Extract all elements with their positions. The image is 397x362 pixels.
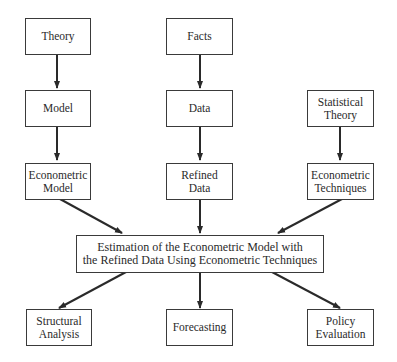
node-label-line-1: Estimation of the Econometric Model with <box>83 241 318 255</box>
node-data: Data <box>166 90 233 127</box>
node-econometric-model: Econometric Model <box>25 163 91 200</box>
node-label-line-1: Econometric <box>311 169 370 182</box>
node-statistical-theory: Statistical Theory <box>307 90 374 127</box>
node-econometric-techniques: Econometric Techniques <box>307 163 374 200</box>
arrow-techniques-estimation <box>278 199 342 233</box>
node-policy-evaluation: Policy Evaluation <box>307 309 374 346</box>
node-label-line-1: Policy <box>316 315 366 328</box>
node-label-line-1: Econometric <box>29 169 88 182</box>
node-label: Data <box>189 102 211 115</box>
node-label-line-1: Statistical <box>318 96 363 109</box>
node-structural-analysis: Structural Analysis <box>26 309 92 346</box>
node-label-line-2: Techniques <box>311 182 370 195</box>
node-label: Forecasting <box>173 321 227 334</box>
node-model: Model <box>25 90 91 127</box>
node-label-line-2: the Refined Data Using Econometric Techn… <box>83 254 318 268</box>
node-label-line-2: Data <box>181 182 217 195</box>
node-label: Theory <box>41 30 74 43</box>
node-refined-data: Refined Data <box>166 163 233 200</box>
arrow-econmodel-estimation <box>60 199 122 233</box>
node-label: Facts <box>187 30 211 43</box>
node-label-line-2: Evaluation <box>316 328 366 341</box>
node-estimation: Estimation of the Econometric Model with… <box>76 235 324 273</box>
node-facts: Facts <box>166 18 233 55</box>
node-label: Model <box>43 102 73 115</box>
node-label-line-2: Theory <box>318 109 363 122</box>
node-label-line-1: Refined <box>181 169 217 182</box>
node-theory: Theory <box>25 18 91 55</box>
node-label-line-1: Structural <box>36 315 81 328</box>
node-label-line-2: Model <box>29 182 88 195</box>
arrow-estimation-policy <box>272 272 340 308</box>
arrow-estimation-structural <box>59 272 126 308</box>
node-label-line-2: Analysis <box>36 328 81 341</box>
node-forecasting: Forecasting <box>166 309 233 346</box>
